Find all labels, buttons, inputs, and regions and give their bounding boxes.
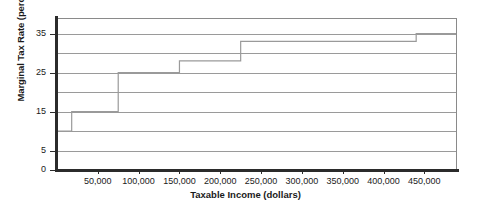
chart-figure: Marginal Tax Rate (percent) 05152535 50,… [0,0,491,205]
y-tick-label-35: 35 [20,28,46,38]
gridline-y-30 [57,53,457,54]
y-tick-label-15: 15 [20,106,46,116]
y-tick-label-5: 5 [20,145,46,155]
plot-frame-top [57,18,457,19]
x-tick-mark-100000 [139,170,140,174]
x-tick-mark-250000 [261,170,262,174]
x-tick-mark-300000 [302,170,303,174]
gridline-y-25 [57,73,457,74]
gridline-y-15 [57,112,457,113]
y-tick-mark-25 [50,73,56,74]
plot-frame-right [456,18,457,170]
plot-area [57,18,457,170]
y-tick-mark-35 [50,34,56,35]
y-tick-label-0: 0 [20,164,46,174]
x-tick-mark-450000 [424,170,425,174]
y-tick-mark-5 [50,151,56,152]
x-tick-mark-150000 [179,170,180,174]
y-tick-label-25: 25 [20,67,46,77]
x-axis-spine [55,169,459,172]
gridline-y-5 [57,151,457,152]
x-tick-mark-200000 [220,170,221,174]
gridline-y-35 [57,34,457,35]
y-axis-spine [55,16,58,172]
x-axis-title: Taxable Income (dollars) [0,189,491,200]
y-tick-mark-0 [50,170,56,171]
x-tick-label-450000: 450,000 [394,176,454,186]
gridline-y-20 [57,92,457,93]
y-tick-mark-15 [50,112,56,113]
x-tick-mark-50000 [98,170,99,174]
x-tick-mark-350000 [343,170,344,174]
x-tick-mark-400000 [384,170,385,174]
gridline-y-10 [57,131,457,132]
